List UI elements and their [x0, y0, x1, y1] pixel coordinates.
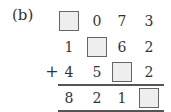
digit-cell: 4 — [57, 59, 81, 84]
digit-cell: 0 — [85, 8, 109, 33]
blank-box[interactable] — [139, 88, 159, 108]
bottom-line — [58, 110, 164, 112]
digit-cell: 8 — [57, 85, 81, 110]
digit-cell: 3 — [137, 8, 161, 33]
digit-cell[interactable] — [85, 34, 109, 59]
sum-row: 8 2 1 — [0, 85, 171, 110]
digit-cell[interactable] — [110, 59, 134, 84]
digit-cell: 1 — [110, 85, 134, 110]
blank-box[interactable] — [87, 37, 107, 57]
digit-cell: 2 — [137, 34, 161, 59]
digit-cell: 6 — [110, 34, 134, 59]
addend-row-3: + 4 5 2 — [0, 59, 171, 84]
addend-row-1: 0 7 3 — [0, 8, 171, 33]
digit-cell[interactable] — [137, 85, 161, 110]
digit-cell: 5 — [85, 59, 109, 84]
digit-cell: 2 — [85, 85, 109, 110]
digit-cell: 1 — [57, 34, 81, 59]
digit-cell[interactable] — [57, 8, 81, 33]
digit-cell: 7 — [110, 8, 134, 33]
blank-box[interactable] — [59, 11, 79, 31]
addend-row-2: 1 6 2 — [0, 34, 171, 59]
digit-cell: 2 — [137, 59, 161, 84]
blank-box[interactable] — [112, 62, 132, 82]
